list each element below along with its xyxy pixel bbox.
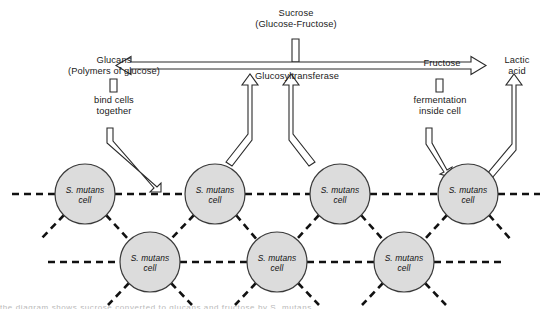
cell-bottom-1-label-line2: cell [115,264,185,274]
fermentation-label: fermentation inside cell [383,95,497,117]
cell-top-2-label: S. mutans cell [180,186,250,205]
cell-bottom-3-label-line2: cell [369,264,439,274]
bind-cells-label: bind cells together [58,95,170,117]
cell-bottom-2-label-line1: S. mutans [258,253,297,263]
sucrose-label-line2: (Glucose-Fructose) [225,19,367,30]
cell-top-2-label-line1: S. mutans [196,185,235,195]
diagram-canvas: Sucrose (Glucose-Fructose) Glucans (Poly… [0,0,549,309]
bind-cells-arrow [107,128,161,192]
sucrose-stem-connector [292,39,299,62]
cell-top-4-label-line2: cell [433,196,503,206]
cell-bottom-1-label-line1: S. mutans [131,253,170,263]
glucans-label-line1: Glucans [28,55,200,66]
cell-top-1-label-line2: cell [50,196,120,206]
glucosyltransferase-arrow-right [283,74,315,166]
glucosyltransferase-label: Glucosyltransferase [215,71,379,82]
fermentation-label-line2: inside cell [383,106,497,117]
cell-top-3-label-line1: S. mutans [321,185,360,195]
glucosyltransferase-arrow-left [226,74,258,166]
glucans-short-connector [110,79,117,92]
cell-bottom-2-label: S. mutans cell [242,254,312,273]
lactic-acid-label-line1: Lactic [491,55,543,66]
cell-bottom-2-label-line2: cell [242,264,312,274]
cell-bottom-3-label: S. mutans cell [369,254,439,273]
cell-top-2-label-line2: cell [180,196,250,206]
cell-top-3-label: S. mutans cell [305,186,375,205]
lactic-acid-label: Lactic acid [491,55,543,77]
cell-top-4-label: S. mutans cell [433,186,503,205]
cell-bottom-1-label: S. mutans cell [115,254,185,273]
fermentation-arrow [426,128,452,177]
cell-bottom-3-label-line1: S. mutans [385,253,424,263]
glucans-label: Glucans (Polymers of glucose) [28,55,200,77]
cell-top-1-label-line1: S. mutans [66,185,105,195]
clipped-caption-text: the diagram shows sucrose converted to g… [0,303,549,309]
fructose-short-connector [436,79,443,92]
glucans-label-line2: (Polymers of glucose) [28,66,200,77]
cell-top-3-label-line2: cell [305,196,375,206]
lactic-acid-label-line2: acid [491,66,543,77]
sucrose-label: Sucrose (Glucose-Fructose) [225,8,367,30]
cell-top-1-label: S. mutans cell [50,186,120,205]
bind-cells-label-line2: together [58,106,170,117]
bind-cells-label-line1: bind cells [58,95,170,106]
fermentation-label-line1: fermentation [383,95,497,106]
cell-top-4-label-line1: S. mutans [449,185,488,195]
sucrose-label-line1: Sucrose [225,8,367,19]
lactic-acid-arrow [487,74,522,178]
fructose-label: Fructose [406,58,478,69]
